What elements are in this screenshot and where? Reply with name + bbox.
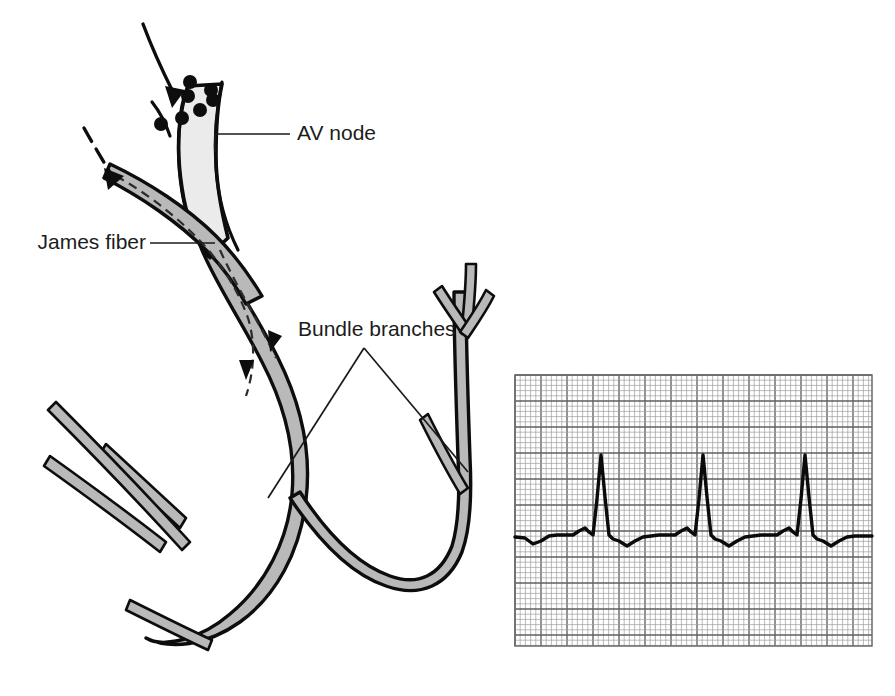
ecg-strip [515,375,872,646]
bundle-branches-label: Bundle branches [298,317,456,340]
atrial-dot-2 [175,111,189,125]
atrial-dot-7 [204,83,218,97]
av-node-label: AV node [297,121,376,144]
conduction-system-figure: AV node James fiber Bundle branches [0,0,895,696]
figure-root: AV node James fiber Bundle branches [0,0,895,696]
atrial-dot-6 [183,75,197,89]
atrial-dot-3 [193,103,207,117]
james-fiber-label: James fiber [37,230,146,253]
